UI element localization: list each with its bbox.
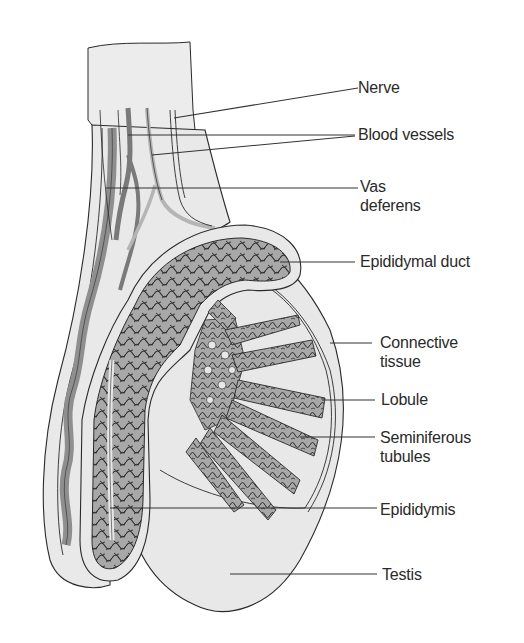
- testis-anatomy-diagram: [0, 0, 524, 643]
- label-seminiferous-tubules: Seminiferous tubules: [380, 428, 471, 466]
- label-testis: Testis: [382, 565, 422, 584]
- label-nerve: Nerve: [358, 78, 400, 97]
- label-epididymis: Epididymis: [380, 500, 455, 519]
- label-vas-deferens: Vas deferens: [360, 177, 421, 215]
- label-blood-vessels: Blood vessels: [358, 125, 454, 144]
- label-connective-tissue: Connective tissue: [380, 333, 458, 371]
- label-lobule: Lobule: [381, 390, 428, 409]
- label-epididymal-duct: Epididymal duct: [360, 252, 470, 271]
